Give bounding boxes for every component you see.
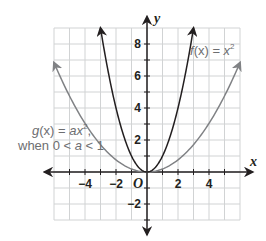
x-tick-label: 4 xyxy=(206,177,213,191)
y-tick-label: 8 xyxy=(134,37,141,51)
origin-label: O xyxy=(133,176,143,191)
x-axis-label: x xyxy=(249,154,257,169)
y-tick-label: 4 xyxy=(134,101,141,115)
f-function-label: f(x) = x2 xyxy=(190,42,235,58)
x-tick-label: −2 xyxy=(109,177,123,191)
y-tick-label: 6 xyxy=(134,69,141,83)
y-axis-label: y xyxy=(152,11,161,26)
y-tick-label: −2 xyxy=(127,197,141,211)
x-tick-label: −4 xyxy=(78,177,92,191)
g-function-label-line1: g(x) = ax2, xyxy=(32,122,91,138)
y-tick-label: 2 xyxy=(134,133,141,147)
graph: −4−224−22468 x y O f(x) = x2 g(x) = ax2,… xyxy=(0,0,266,241)
g-function-label-line2: when 0 < a < 1 xyxy=(17,138,104,153)
x-tick-label: 2 xyxy=(175,177,182,191)
